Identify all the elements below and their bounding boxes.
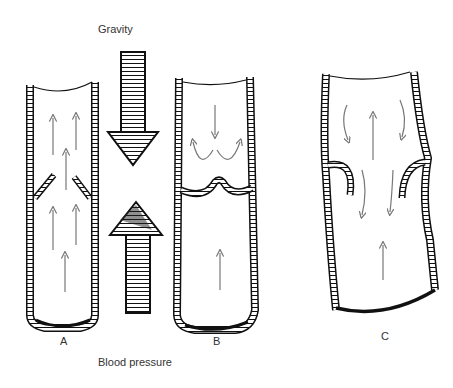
vein-c: [325, 72, 436, 311]
vein-valve-diagram: [0, 0, 453, 388]
flow-arrows-a: [53, 116, 76, 292]
gravity-arrow-icon: [108, 52, 158, 165]
vein-b: [177, 77, 255, 330]
vein-a: [30, 82, 95, 328]
blood-pressure-arrow-icon: [110, 202, 162, 313]
